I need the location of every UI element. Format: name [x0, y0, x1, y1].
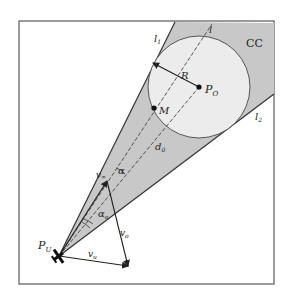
label-l: l [209, 24, 212, 35]
label-cc: CC [246, 37, 263, 50]
point-po [196, 84, 201, 89]
label-alpha: α [118, 165, 125, 176]
collision-cone-diagram: CC l1 l2 l R PO M d0 v∞ α αo vo vu PU [0, 0, 291, 301]
label-r: R [180, 70, 189, 81]
label-m: M [158, 105, 170, 116]
point-m [151, 105, 156, 110]
